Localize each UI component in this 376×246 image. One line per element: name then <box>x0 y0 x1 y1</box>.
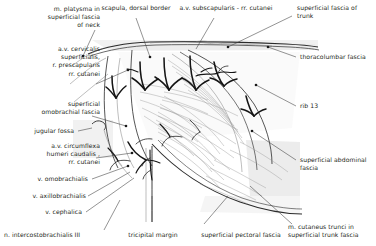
anatomical-illustration <box>0 0 376 246</box>
tone-wash <box>73 40 318 214</box>
